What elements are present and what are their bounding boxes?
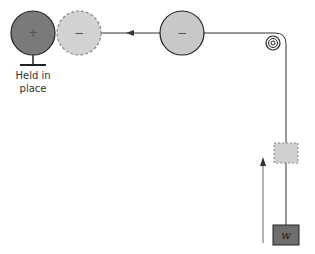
moving-negative-charge: −	[160, 11, 204, 55]
weight-block: w	[273, 225, 299, 245]
ghost-weight-block	[274, 143, 298, 163]
minus-sign: −	[177, 26, 187, 40]
weight-label: w	[281, 229, 291, 242]
motion-arrow-left	[126, 30, 134, 36]
string	[100, 33, 286, 225]
fixed-positive-charge: +	[11, 11, 55, 65]
held-in-place-label-1: Held in	[15, 70, 50, 81]
minus-sign: −	[74, 26, 84, 40]
pulley-icon	[266, 36, 280, 50]
ghost-negative-charge: −	[57, 11, 101, 55]
upward-arrow	[260, 157, 266, 243]
charge-pulley-diagram: + Held in place − − w	[0, 0, 315, 254]
plus-sign: +	[28, 26, 38, 40]
held-in-place-label-2: place	[20, 83, 47, 94]
